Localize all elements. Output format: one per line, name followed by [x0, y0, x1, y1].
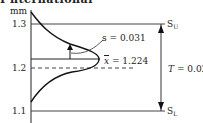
y-tick-1-2: 1.2	[12, 63, 26, 73]
lower-limit-subscript: L	[173, 110, 177, 117]
lower-limit-label: SL	[167, 106, 177, 119]
mean-label: x = 1.224	[104, 56, 148, 66]
y-tick-1-1: 1.1	[12, 106, 26, 116]
y-tick-1-3: 1.3	[12, 19, 26, 29]
upper-limit-label: SU	[167, 19, 178, 32]
tolerance-symbol: T	[168, 64, 174, 74]
unit-label: mm	[10, 6, 27, 16]
normal-distribution-curve	[31, 12, 99, 102]
tolerance-label: T = 0.02	[168, 64, 203, 74]
mean-symbol: x	[104, 56, 109, 66]
std-dev-leader	[71, 40, 103, 53]
mean-value: = 1.224	[112, 56, 148, 66]
tolerance-arrowhead-top	[158, 25, 164, 33]
tolerance-value: = 0.02	[177, 64, 203, 74]
upper-limit-subscript: U	[173, 23, 178, 30]
tolerance-arrowhead-bottom	[158, 102, 164, 110]
std-dev-label: s = 0.031	[102, 33, 146, 43]
